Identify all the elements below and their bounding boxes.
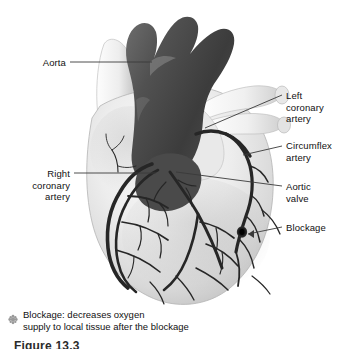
label-aortic-valve: Aortic valve	[286, 181, 346, 204]
heart-body	[87, 17, 291, 305]
branch-10	[252, 276, 270, 294]
label-right-coronary-artery: Right coronary artery	[12, 168, 70, 203]
label-left-coronary-artery: Left coronary artery	[286, 90, 346, 125]
label-aorta: Aorta	[18, 57, 66, 69]
heart-coronary-figure: Aorta Right coronary artery Left coronar…	[0, 0, 348, 349]
legend: Blockage: decreases oxygen supply to loc…	[8, 309, 258, 333]
blockage-node-core	[239, 229, 244, 235]
blockage-marker-icon	[8, 311, 18, 322]
label-circumflex-artery: Circumflex artery	[286, 140, 346, 163]
label-blockage: Blockage	[286, 222, 346, 234]
figure-caption: Figure 13.3	[14, 339, 80, 349]
legend-text: Blockage: decreases oxygen supply to loc…	[23, 309, 189, 333]
